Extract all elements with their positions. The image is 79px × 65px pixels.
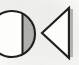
triangle-glyph: [42, 8, 73, 58]
circle-glyph: [0, 11, 35, 57]
glyph-layer: [0, 0, 79, 65]
triangle-body: [42, 8, 69, 58]
edge-shadow: [71, 9, 73, 57]
image-canvas: [0, 0, 79, 65]
glyphs-svg: [0, 0, 79, 65]
